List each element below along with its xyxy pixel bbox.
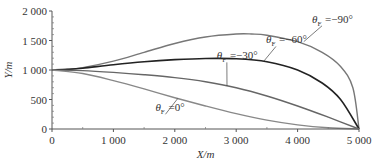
- y-axis-title: Y/m: [2, 61, 14, 78]
- series-label-text: θF =−90°: [312, 13, 353, 28]
- leader-line: [264, 46, 276, 61]
- x-axis: 01 0002 0003 0004 0005 000 X/m: [49, 127, 372, 160]
- series-line-3: [52, 70, 359, 129]
- y-axis: 05001 0001 5002 000 Y/m: [2, 5, 54, 135]
- x-tick-label: 5 000: [347, 134, 372, 146]
- series-label-2: θF =−30°: [217, 49, 258, 86]
- series-line-1: [52, 58, 359, 129]
- plot-area: θF =−90°θF =−60°θF =−30°θF =0°: [52, 13, 359, 129]
- series-label-0: θF =−90°: [304, 13, 353, 42]
- y-tick-label: 1 500: [22, 35, 47, 47]
- y-tick-label: 500: [31, 94, 48, 106]
- x-tick-label: 1 000: [101, 134, 126, 146]
- y-tick-label: 1 000: [22, 64, 47, 76]
- y-ticks: 05001 0001 5002 000: [22, 5, 54, 135]
- x-tick-label: 0: [49, 134, 55, 146]
- series-label-1: θF =−60°: [264, 33, 307, 61]
- y-tick-label: 2 000: [22, 5, 47, 17]
- series-label-text: θF =0°: [155, 101, 184, 116]
- x-axis-title: X/m: [196, 148, 215, 160]
- series-label-3: θF =0°: [155, 98, 184, 116]
- x-tick-label: 2 000: [162, 134, 187, 146]
- series-label-text: θF =−30°: [217, 49, 258, 64]
- x-tick-label: 3 000: [224, 134, 249, 146]
- y-tick-label: 0: [42, 123, 48, 135]
- series-line-2: [52, 70, 359, 129]
- x-ticks: 01 0002 0003 0004 0005 000: [49, 127, 372, 146]
- x-tick-label: 4 000: [285, 134, 310, 146]
- trajectory-chart: θF =−90°θF =−60°θF =−30°θF =0° 05001 000…: [0, 0, 380, 162]
- series-lines: [52, 34, 359, 129]
